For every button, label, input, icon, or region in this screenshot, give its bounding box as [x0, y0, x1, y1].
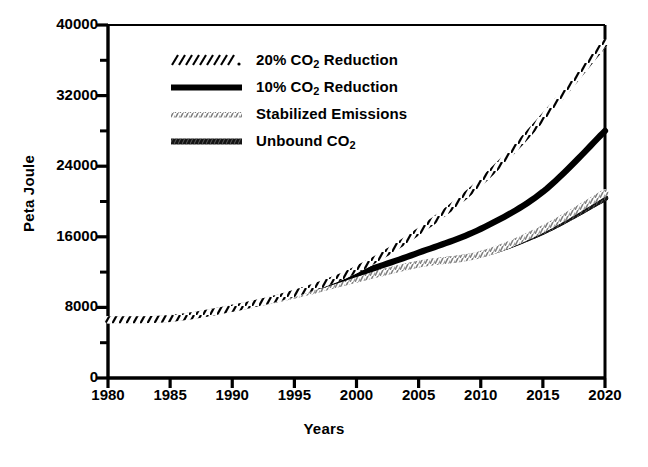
- x-tick-label: 1995: [262, 386, 326, 403]
- legend-label-stabilized-emissions: Stabilized Emissions: [256, 105, 407, 122]
- legend-item-10pct-co2-reduction: 10% CO2 Reduction: [170, 73, 407, 100]
- y-tick-label: 24000: [12, 156, 98, 173]
- legend-swatch-textured-icon: [170, 134, 244, 148]
- x-tick-label: 1990: [200, 386, 264, 403]
- y-tick-label: 16000: [12, 227, 98, 244]
- legend-item-unbound-co2: Unbound CO2: [170, 127, 407, 154]
- chart-legend: 20% CO2 Reduction 10% CO2 Reduction Stab…: [170, 46, 407, 154]
- legend-label-10pct-co2-reduction: 10% CO2 Reduction: [256, 78, 398, 95]
- y-tick-label: 32000: [12, 86, 98, 103]
- x-tick-label: 2020: [573, 386, 637, 403]
- chart-figure: Peta Joule Years 08000160002400032000400…: [0, 0, 648, 467]
- legend-label-20pct-co2-reduction: 20% CO2 Reduction: [256, 51, 398, 68]
- x-tick-label: 2015: [511, 386, 575, 403]
- x-tick-label: 2010: [449, 386, 513, 403]
- legend-swatch-hatched-icon: [170, 53, 244, 67]
- y-tick-label: 8000: [12, 297, 98, 314]
- x-tick-label: 1985: [138, 386, 202, 403]
- x-axis-title: Years: [0, 420, 648, 437]
- y-tick-label: 40000: [12, 15, 98, 32]
- legend-item-20pct-co2-reduction: 20% CO2 Reduction: [170, 46, 407, 73]
- x-tick-label: 2000: [325, 386, 389, 403]
- legend-label-unbound-co2: Unbound CO2: [256, 132, 356, 149]
- x-tick-label: 2005: [387, 386, 451, 403]
- legend-swatch-stipple-icon: [170, 107, 244, 121]
- x-tick-label: 1980: [76, 386, 140, 403]
- legend-swatch-solid-icon: [170, 80, 244, 94]
- y-tick-label: 0: [12, 368, 98, 385]
- legend-item-stabilized-emissions: Stabilized Emissions: [170, 100, 407, 127]
